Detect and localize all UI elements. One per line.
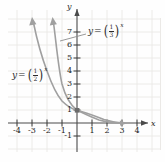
x-tick-label-neg3: -3 bbox=[25, 127, 39, 135]
curve-label-one-third: y=(13)x bbox=[88, 23, 124, 39]
fraction-numerator: 1 bbox=[33, 68, 39, 74]
curve-third-arrowhead bbox=[50, 17, 57, 26]
x-tick-label-neg4: -4 bbox=[10, 127, 24, 135]
open-paren-icon: ( bbox=[103, 26, 107, 36]
y-tick-label-5: 5 bbox=[63, 54, 72, 62]
y-tick-label-7: 7 bbox=[63, 28, 72, 36]
x-tick-label-4: 4 bbox=[132, 127, 142, 135]
curve-label-one-half: y=(12)x bbox=[12, 67, 48, 83]
curve-half-arrowhead bbox=[29, 17, 36, 26]
y-tick-label-6: 6 bbox=[63, 41, 72, 49]
x-tick-label-neg2: -2 bbox=[40, 127, 54, 135]
close-paren-icon: ) bbox=[115, 26, 119, 36]
exponential-graph-figure: y x -4 -3 -2 -1 1 2 3 4 7 6 5 4 3 2 1 -1… bbox=[0, 0, 165, 162]
curve-label-one-half-equals: = bbox=[17, 70, 27, 80]
y-tick-label-3: 3 bbox=[63, 80, 72, 88]
x-tick-label-3: 3 bbox=[117, 127, 127, 135]
y-axis-label: y bbox=[67, 2, 72, 11]
y-tick-label-1: 1 bbox=[63, 106, 72, 114]
open-paren-icon: ( bbox=[27, 70, 31, 80]
close-paren-icon: ) bbox=[39, 70, 43, 80]
y-tick-label-neg1: -1 bbox=[60, 132, 72, 140]
fraction-denominator: 2 bbox=[33, 76, 39, 82]
y-intercept-marker bbox=[75, 108, 80, 113]
x-axis-label: x bbox=[151, 119, 156, 128]
fraction-denominator: 3 bbox=[109, 32, 115, 38]
fraction-numerator: 1 bbox=[109, 24, 115, 30]
x-tick-label-1: 1 bbox=[87, 127, 97, 135]
y-tick-label-4: 4 bbox=[63, 67, 72, 75]
exponent-x: x bbox=[120, 22, 123, 28]
exponent-x: x bbox=[44, 66, 47, 72]
y-axis-arrowhead bbox=[74, 9, 79, 16]
x-axis-arrowhead bbox=[141, 120, 148, 125]
fraction-one-half: 12 bbox=[33, 68, 39, 82]
curve-right-arrowhead bbox=[120, 121, 127, 126]
y-tick-label-2: 2 bbox=[63, 93, 72, 101]
curve-label-one-third-equals: = bbox=[93, 26, 103, 36]
x-tick-label-2: 2 bbox=[102, 127, 112, 135]
fraction-one-third: 13 bbox=[109, 24, 115, 38]
